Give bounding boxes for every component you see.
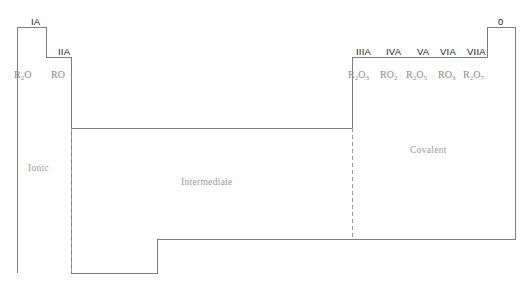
formula-ro3: RO3 — [438, 70, 455, 80]
subscript: 5 — [423, 74, 427, 82]
formula-ro2: RO2 — [380, 70, 397, 80]
group-label-va: VA — [417, 47, 429, 57]
formula-r2o: R2O — [14, 70, 31, 80]
region-label-ionic: Ionic — [28, 164, 49, 174]
region-label-intermediate: Intermediate — [181, 178, 233, 188]
subscript: 3 — [365, 74, 369, 82]
subscript: 2 — [470, 74, 474, 82]
group-label-ia: IA — [31, 17, 40, 27]
diagram-canvas — [0, 0, 530, 286]
formula-r2o7: R2O7 — [463, 70, 484, 80]
group-label-iiia: IIIA — [356, 47, 371, 57]
bonding-character-diagram: IA IIA IIIA IVA VA VIA VIIA 0 R2O RO R2O… — [0, 0, 530, 286]
group-label-iia: IIA — [58, 47, 70, 57]
subscript: 2 — [355, 74, 359, 82]
subscript: 2 — [413, 74, 417, 82]
subscript: 2 — [21, 74, 25, 82]
formula-ro: RO — [51, 70, 65, 80]
group-label-via: VIA — [440, 47, 456, 57]
subscript: 2 — [394, 74, 398, 82]
group-label-viia: VIIA — [467, 47, 486, 57]
group-label-iva: IVA — [386, 47, 401, 57]
region-label-covalent: Covalent — [410, 146, 447, 156]
subscript: 3 — [452, 74, 456, 82]
formula-r2o3: R2O3 — [348, 70, 369, 80]
formula-r2o5: R2O5 — [406, 70, 427, 80]
group-label-zero: 0 — [498, 17, 503, 27]
subscript: 7 — [480, 74, 484, 82]
